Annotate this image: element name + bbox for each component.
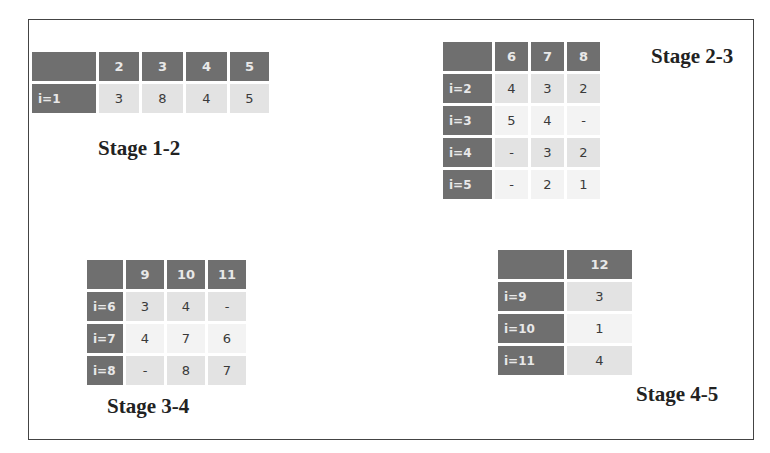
stage-2-3-label: Stage 2-3 <box>651 44 733 69</box>
corner-cell <box>443 42 492 71</box>
cell: 1 <box>567 314 632 343</box>
cell: 6 <box>208 324 246 353</box>
column-header: 2 <box>99 52 139 81</box>
cell: 3 <box>531 74 564 103</box>
cell: - <box>126 356 164 385</box>
cell: 3 <box>126 292 164 321</box>
column-header: 5 <box>230 52 269 81</box>
column-header: 10 <box>167 260 205 289</box>
cell: 2 <box>531 170 564 199</box>
cell: 7 <box>208 356 246 385</box>
row-header: i=9 <box>498 282 564 311</box>
table-row: i=6 3 4 - <box>87 292 246 321</box>
cell: 4 <box>495 74 528 103</box>
row-header: i=8 <box>87 356 123 385</box>
table-row: i=1 3 8 4 5 <box>32 84 269 113</box>
column-header: 12 <box>567 250 632 279</box>
table-row: i=11 4 <box>498 346 632 375</box>
cell: 7 <box>167 324 205 353</box>
row-header: i=4 <box>443 138 492 167</box>
cell: 1 <box>567 170 600 199</box>
cell: 8 <box>167 356 205 385</box>
table-row: i=7 4 7 6 <box>87 324 246 353</box>
cell: 4 <box>531 106 564 135</box>
cell: - <box>208 292 246 321</box>
cell: 2 <box>567 74 600 103</box>
corner-cell <box>498 250 564 279</box>
cell: 3 <box>99 84 139 113</box>
stage-1-2-label: Stage 1-2 <box>98 136 180 161</box>
cell: 5 <box>230 84 269 113</box>
row-header: i=1 <box>32 84 96 113</box>
column-header: 9 <box>126 260 164 289</box>
table-row: i=5 - 2 1 <box>443 170 600 199</box>
stage-3-4-table: 9 10 11 i=6 3 4 - i=7 4 7 6 i=8 - 8 7 <box>84 257 249 388</box>
cell: 2 <box>567 138 600 167</box>
corner-cell <box>32 52 96 81</box>
column-header: 11 <box>208 260 246 289</box>
row-header: i=3 <box>443 106 492 135</box>
cell: - <box>567 106 600 135</box>
stage-2-3-table: 6 7 8 i=2 4 3 2 i=3 5 4 - i=4 - 3 2 i=5 … <box>440 39 603 202</box>
stage-4-5-label: Stage 4-5 <box>636 382 718 407</box>
table-row: i=8 - 8 7 <box>87 356 246 385</box>
corner-cell <box>87 260 123 289</box>
row-header: i=6 <box>87 292 123 321</box>
cell: 4 <box>126 324 164 353</box>
cell: 3 <box>531 138 564 167</box>
cell: 5 <box>495 106 528 135</box>
row-header: i=2 <box>443 74 492 103</box>
column-header: 8 <box>567 42 600 71</box>
stage-1-2-table: 2 3 4 5 i=1 3 8 4 5 <box>29 49 272 116</box>
table-row: i=10 1 <box>498 314 632 343</box>
cell: 3 <box>567 282 632 311</box>
column-header: 4 <box>186 52 227 81</box>
cell: - <box>495 138 528 167</box>
cell: 4 <box>167 292 205 321</box>
column-header: 7 <box>531 42 564 71</box>
stage-4-5-table: 12 i=9 3 i=10 1 i=11 4 <box>495 247 635 378</box>
row-header: i=7 <box>87 324 123 353</box>
row-header: i=5 <box>443 170 492 199</box>
row-header: i=11 <box>498 346 564 375</box>
row-header: i=10 <box>498 314 564 343</box>
cell: - <box>495 170 528 199</box>
column-header: 6 <box>495 42 528 71</box>
table-row: i=3 5 4 - <box>443 106 600 135</box>
column-header: 3 <box>142 52 183 81</box>
table-row: i=9 3 <box>498 282 632 311</box>
cell: 8 <box>142 84 183 113</box>
table-row: i=2 4 3 2 <box>443 74 600 103</box>
cell: 4 <box>186 84 227 113</box>
table-row: i=4 - 3 2 <box>443 138 600 167</box>
cell: 4 <box>567 346 632 375</box>
stage-3-4-label: Stage 3-4 <box>107 394 189 419</box>
